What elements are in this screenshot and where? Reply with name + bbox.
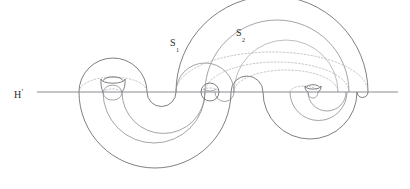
label-surface-s2-base: S [236,27,242,38]
right-tube-bottom [308,92,318,98]
outer-surface-outline [79,0,368,168]
left-dome-outer [79,58,147,92]
s1-contour [205,20,349,92]
s2-back-ellipse [234,70,338,92]
label-surface-s1-base: S [170,37,176,48]
s1-back-ellipse [205,62,349,92]
label-surface-s1-sub: 1 [176,47,179,53]
figure-canvas: .s { fill:none; stroke:#55555a; stroke-w… [0,0,410,189]
mid-hole-inner-arc [204,89,217,91]
right-inner-bowl-2 [308,92,346,111]
surface-diagram-svg: .s { fill:none; stroke:#55555a; stroke-w… [0,0,410,189]
left-inner-bowl-1 [103,92,205,143]
left-inner-bowl-2 [122,92,205,133]
right-inner-bowl-1 [290,92,347,121]
left-tube-bottom [103,92,122,100]
left-hole-front-arc [101,79,125,83]
right-dome-back-ellipse [176,52,368,92]
right-hole-back-arc [307,85,319,87]
left-handle-inner-top [103,85,122,92]
label-plane-h-base: H [14,89,21,100]
left-dome-back-ellipse [79,77,147,92]
s2-contour [234,40,338,92]
left-bottom-outer [79,92,231,168]
top-valley-left [147,92,176,107]
label-plane-h-prime: ' [22,88,23,97]
label-surface-s2-sub: 2 [242,37,245,43]
label-plane-h: H' [14,85,23,101]
inner-tube-contours [103,20,349,143]
hidden-back-contours [79,52,368,92]
right-handle-hole [305,85,321,98]
label-surface-s2: S2 [236,23,245,41]
right-dome-outer [176,0,368,92]
right-edge-cap [357,92,368,98]
label-surface-s1: S1 [170,33,179,51]
right-bottom-outer [263,92,357,139]
